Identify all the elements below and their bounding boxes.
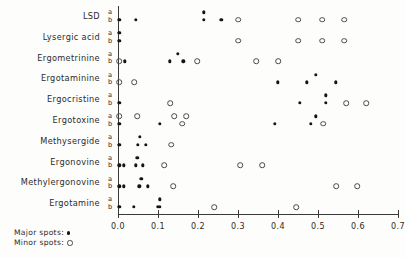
compound-label: Ergonovine	[50, 157, 100, 165]
minor-spot	[343, 100, 349, 106]
compound-label: Ergotaminine	[41, 74, 100, 82]
legend-major-label: Major spots:	[14, 228, 64, 238]
minor-spot	[333, 183, 339, 189]
subrow-label-b: b	[108, 16, 112, 23]
x-tick	[398, 210, 399, 218]
filled-circle-icon	[67, 231, 70, 234]
compound-label: Methysergide	[40, 137, 100, 145]
minor-spot	[319, 17, 325, 23]
minor-spot	[341, 17, 347, 23]
compound-label: Ergocristine	[47, 95, 100, 103]
minor-spot	[253, 59, 259, 65]
x-tick-label: 0.2	[191, 222, 205, 231]
subrow-label-b: b	[108, 162, 112, 169]
compound-label: LSD	[83, 12, 100, 20]
minor-spot	[295, 17, 301, 23]
minor-spot	[235, 38, 241, 44]
minor-spot	[131, 79, 137, 85]
compound-label: Lysergic acid	[43, 33, 100, 41]
minor-spot	[161, 163, 167, 169]
minor-spot	[341, 38, 347, 44]
legend: Major spots: Minor spots:	[14, 228, 73, 248]
subrow-label-b: b	[108, 183, 112, 190]
minor-spot	[179, 121, 185, 127]
minor-spot	[116, 59, 122, 65]
minor-spot	[235, 17, 241, 23]
minor-spot	[168, 142, 174, 148]
open-circle-icon	[67, 240, 72, 245]
minor-spot	[319, 38, 325, 44]
minor-spot	[171, 113, 177, 119]
minor-spot	[211, 204, 217, 210]
minor-spot	[183, 113, 189, 119]
legend-major: Major spots:	[14, 228, 73, 238]
x-tick-label: 0.5	[311, 222, 325, 231]
minor-spot	[354, 183, 360, 189]
x-tick-label: 0.3	[231, 222, 245, 231]
minor-spot	[295, 38, 301, 44]
x-tick-label: 0.6	[351, 222, 365, 231]
minor-spot	[116, 79, 122, 85]
minor-spot	[170, 183, 176, 189]
compound-label: Methylergonovine	[21, 178, 100, 186]
minor-spot	[134, 113, 140, 119]
subrow-label-b: b	[108, 79, 112, 86]
subrow-label-b: b	[108, 58, 112, 65]
subrow-label-b: b	[108, 204, 112, 211]
subrow-label-b: b	[108, 120, 112, 127]
minor-spot	[259, 163, 265, 169]
compound-label-column: LSDLysergic acidErgometrinineErgotaminin…	[0, 0, 100, 220]
minor-spot	[363, 100, 369, 106]
minor-spot	[116, 113, 122, 119]
legend-minor-label: Minor spots:	[14, 238, 64, 248]
compound-label: Ergotoxine	[53, 116, 100, 124]
legend-minor: Minor spots:	[14, 238, 73, 248]
minor-spot	[293, 204, 299, 210]
subrow-label-b: b	[108, 141, 112, 148]
minor-spot	[167, 100, 173, 106]
minor-spot	[237, 163, 243, 169]
x-tick-label: 0.4	[271, 222, 285, 231]
x-tick-label: 0.0	[111, 222, 125, 231]
x-tick-label: 0.1	[151, 222, 165, 231]
x-tick-label: 0.7	[391, 222, 405, 231]
x-axis-line	[118, 214, 398, 215]
minor-spot	[275, 59, 281, 65]
subrow-label-b: b	[108, 100, 112, 107]
compound-label: Ergotamine	[49, 199, 100, 207]
minor-spot	[320, 121, 326, 127]
minor-spot	[194, 59, 200, 65]
compound-label: Ergometrinine	[37, 53, 100, 61]
subrow-label-b: b	[108, 37, 112, 44]
